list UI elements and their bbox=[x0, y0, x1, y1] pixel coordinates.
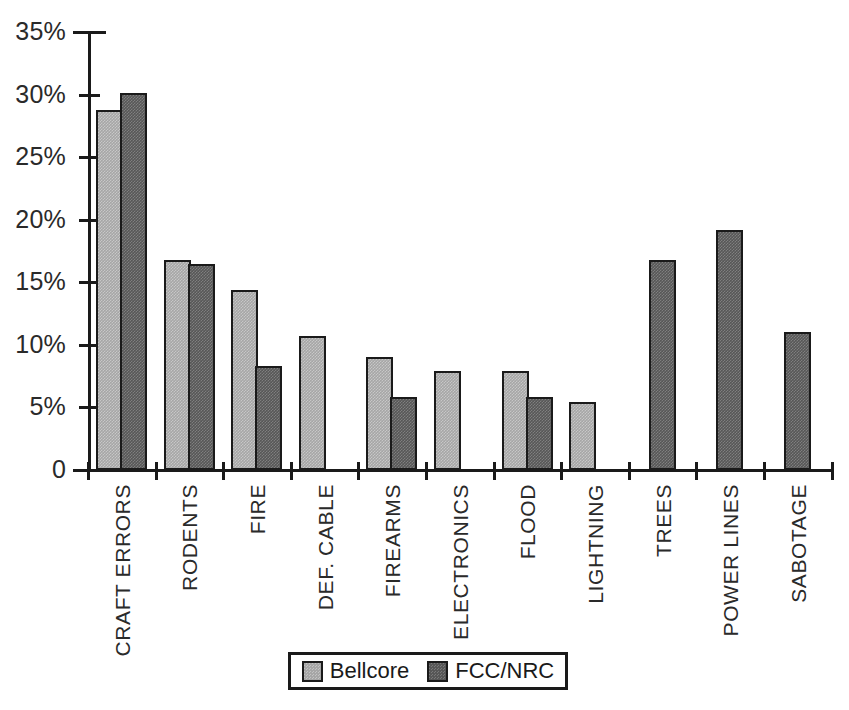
x-axis-tick bbox=[222, 462, 225, 480]
y-axis-tick-label: 5% bbox=[0, 394, 66, 419]
x-axis-tick-label: TREES bbox=[652, 484, 673, 557]
legend-label: FCC/NRC bbox=[455, 660, 554, 682]
bar-group bbox=[358, 32, 426, 470]
x-axis-tick-label: DEF. CABLE bbox=[314, 484, 335, 610]
bar-bellcore bbox=[299, 336, 326, 470]
bar-group bbox=[156, 32, 224, 470]
bar-group bbox=[426, 32, 494, 470]
x-axis-tick-label: FLOOD bbox=[517, 484, 538, 559]
x-axis-tick-label: FIREARMS bbox=[382, 484, 403, 597]
y-axis-tick-label: 25% bbox=[0, 144, 66, 169]
bar-fcc-nrc bbox=[255, 366, 282, 470]
x-axis-label-slot: DEF. CABLE bbox=[291, 484, 359, 634]
bar-bellcore bbox=[569, 402, 596, 470]
x-axis-label-slot: FIREARMS bbox=[358, 484, 426, 634]
bar-fcc-nrc bbox=[526, 397, 553, 470]
x-axis-label-slot: TREES bbox=[629, 484, 697, 634]
chart-legend: BellcoreFCC/NRC bbox=[288, 652, 568, 690]
legend-entry: Bellcore bbox=[302, 660, 409, 682]
y-axis-tick-label: 35% bbox=[0, 19, 66, 44]
bar-chart: 05%10%15%20%25%30%35% CRAFT ERRORSRODENT… bbox=[0, 0, 849, 710]
bar-fcc-nrc bbox=[390, 397, 417, 470]
bar-group bbox=[696, 32, 764, 470]
x-axis-tick-label: RODENTS bbox=[179, 484, 200, 591]
bar-fcc-nrc bbox=[716, 230, 743, 470]
y-axis-tick-label: 30% bbox=[0, 82, 66, 107]
bar-group bbox=[291, 32, 359, 470]
bar-group bbox=[764, 32, 832, 470]
x-axis-label-slot: RODENTS bbox=[156, 484, 224, 634]
x-axis-label-slot: CRAFT ERRORS bbox=[88, 484, 156, 634]
bar-group bbox=[561, 32, 629, 470]
x-axis-tick bbox=[357, 462, 360, 480]
x-axis-tick-label: LIGHTNING bbox=[584, 484, 605, 604]
bellcore-swatch bbox=[302, 661, 323, 682]
x-axis-label-slot: ELECTRONICS bbox=[426, 484, 494, 634]
y-axis-tick-label: 20% bbox=[0, 207, 66, 232]
bar-bellcore bbox=[231, 290, 258, 470]
y-axis-tick-label: 10% bbox=[0, 332, 66, 357]
x-axis-tick bbox=[695, 462, 698, 480]
x-axis-tick-label: ELECTRONICS bbox=[449, 484, 470, 640]
x-axis-tick bbox=[493, 462, 496, 480]
x-axis-line bbox=[88, 469, 832, 472]
x-axis-tick bbox=[763, 462, 766, 480]
y-axis-tick-label: 0 bbox=[0, 457, 66, 482]
y-axis-tick-label: 15% bbox=[0, 269, 66, 294]
bar-fcc-nrc bbox=[784, 332, 811, 470]
fccnrc-swatch bbox=[427, 661, 448, 682]
x-axis-tick bbox=[628, 462, 631, 480]
x-axis-label-slot: FLOOD bbox=[494, 484, 562, 634]
x-axis-tick bbox=[560, 462, 563, 480]
bar-bellcore bbox=[434, 371, 461, 470]
x-axis-label-slot: SABOTAGE bbox=[764, 484, 832, 634]
x-axis-tick-label: POWER LINES bbox=[720, 484, 741, 636]
bar-bellcore bbox=[96, 110, 123, 470]
bar-group bbox=[88, 32, 156, 470]
x-axis-tick bbox=[155, 462, 158, 480]
legend-entry: FCC/NRC bbox=[427, 660, 554, 682]
x-axis-tick bbox=[425, 462, 428, 480]
bar-fcc-nrc bbox=[649, 260, 676, 470]
bar-fcc-nrc bbox=[188, 264, 215, 470]
bar-bellcore bbox=[164, 260, 191, 470]
bar-group bbox=[223, 32, 291, 470]
bar-bellcore bbox=[366, 357, 393, 470]
bar-group bbox=[494, 32, 562, 470]
bar-bellcore bbox=[502, 371, 529, 470]
x-axis-tick-label: SABOTAGE bbox=[787, 484, 808, 603]
x-axis-label-slot: LIGHTNING bbox=[561, 484, 629, 634]
x-axis-tick bbox=[831, 462, 834, 480]
x-axis-tick bbox=[290, 462, 293, 480]
bar-group bbox=[629, 32, 697, 470]
x-axis-label-slot: POWER LINES bbox=[696, 484, 764, 634]
plot-area bbox=[88, 32, 832, 470]
x-axis-tick-label: CRAFT ERRORS bbox=[111, 484, 132, 657]
bar-fcc-nrc bbox=[120, 93, 147, 470]
x-axis-tick-label: FIRE bbox=[246, 484, 267, 534]
legend-label: Bellcore bbox=[330, 660, 409, 682]
x-axis-label-slot: FIRE bbox=[223, 484, 291, 634]
x-axis-tick bbox=[87, 462, 90, 480]
